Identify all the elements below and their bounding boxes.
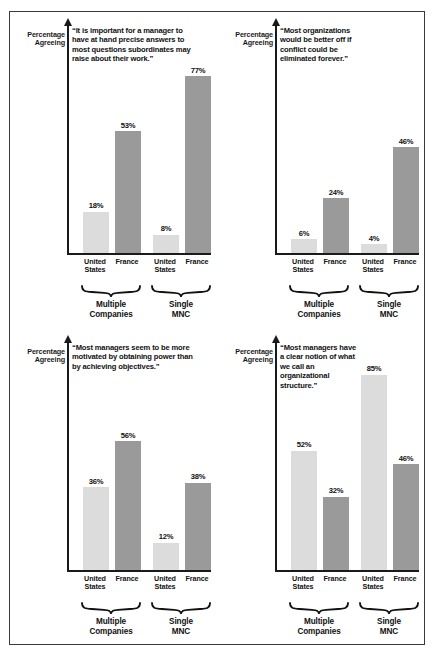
plot-area-3: “Most managers have a clear notion of wh…	[275, 342, 419, 572]
group-label-single: Single MNC	[151, 300, 211, 319]
brace-single	[150, 285, 212, 297]
chart-panel-3: Percentage Agreeing “Most managers have …	[217, 328, 425, 645]
chart-panel-0: Percentage Agreeing “It is important for…	[9, 11, 217, 328]
bar-fill	[185, 76, 211, 253]
bar-value-label: 77%	[191, 66, 206, 75]
group-line2: Companies	[297, 627, 340, 636]
bar-value-label: 46%	[399, 137, 414, 146]
group-line1: Single	[377, 300, 401, 309]
group-line2: MNC	[172, 627, 190, 636]
bar-fr-single-2: 38%	[185, 483, 211, 570]
group-line2: MNC	[380, 627, 398, 636]
group-line2: Companies	[89, 627, 132, 636]
tick-us-single: United States	[147, 258, 183, 275]
bar-fill	[393, 464, 419, 570]
plot-area-2: “Most managers seem to be more motivated…	[67, 342, 211, 572]
tick-line2: States	[155, 265, 176, 274]
group-label-multiple: Multiple Companies	[289, 300, 349, 319]
bar-fill	[323, 497, 349, 571]
tick-us-multiple: United States	[77, 258, 113, 275]
bar-group-0: 18% 53% 8% 77%	[69, 25, 211, 253]
y-axis-label-0: Percentage Agreeing	[13, 31, 65, 47]
bar-fill	[361, 244, 387, 253]
bar-us-multiple-3: 52%	[291, 451, 317, 571]
group-label-single: Single MNC	[359, 300, 419, 319]
group-label-single: Single MNC	[151, 617, 211, 636]
bar-fr-multiple-1: 24%	[323, 198, 349, 253]
bar-fr-single-3: 46%	[393, 464, 419, 570]
bar-fill	[185, 483, 211, 570]
x-axis-line-0	[67, 253, 211, 255]
group-line1: Multiple	[304, 617, 334, 626]
brace-single	[358, 602, 420, 614]
bar-us-single-0: 8%	[153, 235, 179, 253]
bar-fr-multiple-3: 32%	[323, 497, 349, 571]
brace-single	[358, 285, 420, 297]
bar-value-label: 53%	[121, 121, 136, 130]
bar-group-3: 52% 32% 85% 46%	[277, 342, 419, 570]
tick-fr-single: France	[179, 575, 215, 583]
bar-fill	[323, 198, 349, 253]
brace-single	[150, 602, 212, 614]
group-braces-0	[67, 285, 213, 301]
y-axis-label-line2: Agreeing	[221, 39, 273, 47]
bar-value-label: 8%	[161, 224, 172, 233]
figure-page: Percentage Agreeing “It is important for…	[0, 0, 434, 664]
bar-fill	[115, 131, 141, 253]
group-line1: Multiple	[304, 300, 334, 309]
bar-us-multiple-1: 6%	[291, 239, 317, 253]
group-braces-1	[275, 285, 421, 301]
group-labels-1: Multiple Companies Single MNC	[275, 300, 421, 322]
y-axis-label-2: Percentage Agreeing	[13, 348, 65, 364]
tick-line2: States	[363, 265, 384, 274]
brace-multiple	[80, 285, 142, 297]
bar-value-label: 24%	[329, 188, 344, 197]
bar-us-single-1: 4%	[361, 244, 387, 253]
group-line1: Multiple	[96, 300, 126, 309]
chart-panel-2: Percentage Agreeing “Most managers seem …	[9, 328, 217, 645]
bar-us-multiple-2: 36%	[83, 487, 109, 570]
group-label-multiple: Multiple Companies	[289, 617, 349, 636]
bar-fill	[115, 441, 141, 570]
group-labels-3: Multiple Companies Single MNC	[275, 617, 421, 639]
tick-line1: France	[116, 257, 139, 266]
group-label-multiple: Multiple Companies	[81, 617, 141, 636]
tick-fr-single: France	[179, 258, 215, 266]
bar-fill	[291, 451, 317, 571]
bar-fill	[83, 487, 109, 570]
tick-line1: France	[116, 574, 139, 583]
x-axis-line-1	[275, 253, 419, 255]
bar-fill	[361, 375, 387, 571]
bar-value-label: 52%	[297, 440, 312, 449]
tick-line2: States	[293, 582, 314, 591]
bar-value-label: 46%	[399, 454, 414, 463]
tick-line1: France	[394, 574, 417, 583]
plot-area-0: “It is important for a manager to have a…	[67, 25, 211, 255]
bar-us-single-2: 12%	[153, 543, 179, 571]
group-line2: Companies	[89, 310, 132, 319]
bar-fill	[153, 235, 179, 253]
brace-multiple	[80, 602, 142, 614]
x-axis-line-3	[275, 570, 419, 572]
group-line1: Single	[169, 617, 193, 626]
tick-line1: France	[324, 257, 347, 266]
tick-fr-multiple: France	[317, 575, 353, 583]
tick-fr-multiple: France	[109, 575, 145, 583]
chart-panel-1: Percentage Agreeing “Most organizations …	[217, 11, 425, 328]
group-label-multiple: Multiple Companies	[81, 300, 141, 319]
bar-value-label: 85%	[367, 364, 382, 373]
bar-fill	[153, 543, 179, 571]
bar-group-1: 6% 24% 4% 46%	[277, 25, 419, 253]
bar-fill	[83, 212, 109, 253]
bar-us-single-3: 85%	[361, 375, 387, 571]
group-labels-0: Multiple Companies Single MNC	[67, 300, 213, 322]
bar-value-label: 36%	[89, 477, 104, 486]
tick-fr-multiple: France	[109, 258, 145, 266]
brace-multiple	[288, 602, 350, 614]
group-line2: MNC	[172, 310, 190, 319]
x-axis-line-2	[67, 570, 211, 572]
tick-fr-single: France	[387, 575, 423, 583]
tick-us-multiple: United States	[77, 575, 113, 592]
bar-fill	[291, 239, 317, 253]
tick-line2: States	[85, 582, 106, 591]
